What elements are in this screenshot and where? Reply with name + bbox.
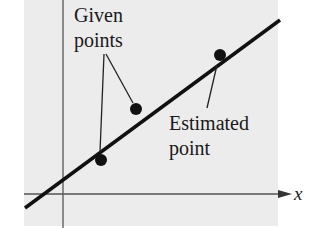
given-label-line2: points (74, 29, 123, 52)
estimated-point (214, 49, 226, 61)
estimated-label-line1: Estimated (169, 112, 249, 134)
x-axis-arrow-icon (278, 190, 292, 198)
given-point-2 (130, 103, 142, 115)
given-point-1 (95, 154, 107, 166)
given-label-line1: Given (74, 4, 123, 26)
linear-extrapolation-diagram: x Given points Estimated point (0, 0, 322, 228)
x-axis-label: x (293, 183, 303, 204)
estimated-label-line2: point (169, 137, 211, 160)
